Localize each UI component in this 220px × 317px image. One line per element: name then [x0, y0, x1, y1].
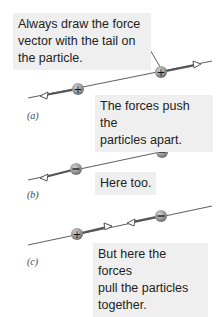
plus-icon: + — [157, 67, 165, 78]
callout-line: the particle. — [18, 50, 146, 67]
callout-line: vector with the tail on — [18, 33, 146, 50]
callout-line: The forces push the — [100, 98, 208, 132]
plus-icon: + — [74, 84, 82, 95]
callout-line: particles apart. — [100, 132, 208, 149]
callout-panel-b: Here too. — [95, 172, 156, 195]
callout-line: pull the particles — [98, 280, 203, 297]
callout-line: together. — [98, 297, 203, 314]
panel-c-diagram: + — [28, 206, 212, 245]
callout-line: Always draw the force — [18, 16, 146, 33]
arrowhead-right-icon — [104, 223, 112, 230]
callout-panel-a: The forces push the particles apart. — [95, 95, 213, 152]
arrowhead-left-icon — [127, 219, 135, 226]
callout-line: But here the forces — [98, 246, 203, 280]
panel-label-b: (b) — [27, 189, 39, 200]
panel-label-c: (c) — [27, 256, 38, 267]
callout-tail-note: Always draw the force vector with the ta… — [13, 13, 151, 70]
panel-label-a: (a) — [27, 110, 39, 121]
plus-icon: + — [73, 229, 81, 240]
callout-panel-c: But here the forces pull the particles t… — [93, 243, 208, 317]
line-of-action — [28, 206, 212, 245]
arrowhead-left-icon — [40, 92, 48, 99]
arrowhead-right-icon — [193, 61, 201, 68]
arrowhead-left-icon — [40, 174, 48, 181]
